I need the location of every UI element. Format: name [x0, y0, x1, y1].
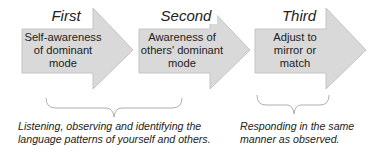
step-title-third: Third [275, 7, 323, 24]
caption-observe-line2: language patterns of yourself and others… [18, 133, 218, 146]
caption-observe-line1: Listening, observing and identifying the [18, 120, 218, 133]
caption-observe: Listening, observing and identifying the… [18, 120, 218, 146]
step-text-second: Awareness of others' dominant mode [140, 31, 224, 70]
step-title-second: Second [155, 7, 217, 24]
step-title-first: First [43, 7, 89, 24]
caption-respond-line1: Responding in the same [240, 120, 370, 133]
caption-respond-line2: manner as observed. [240, 133, 370, 146]
caption-respond: Responding in the same manner as observe… [240, 120, 370, 146]
brace-left [46, 98, 182, 117]
step-text-third: Adjust to mirror or match [262, 31, 328, 70]
step-text-first: Self-awareness of dominant mode [24, 31, 102, 70]
brace-right [257, 95, 329, 114]
